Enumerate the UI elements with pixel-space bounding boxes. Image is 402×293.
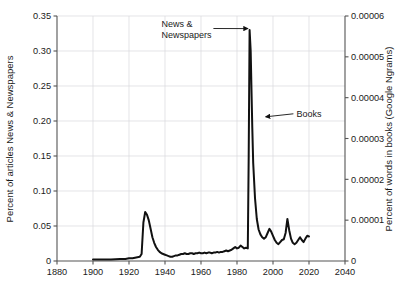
tick-label: 0.35: [33, 11, 51, 21]
y-axis-label-right: Percent of words in books (Google Ngrams…: [383, 47, 394, 232]
figure-caption: [0, 284, 402, 293]
figure-container: 18801900192019401960198020002020204000.0…: [0, 0, 402, 293]
gridlines: [57, 16, 345, 261]
tick-label: 0: [351, 256, 356, 266]
tick-label: 2040: [335, 267, 355, 276]
tick-label: 1940: [155, 267, 175, 276]
tick-label: 0.00004: [351, 93, 384, 103]
chart-annotations: News &NewspapersBooks: [161, 19, 322, 119]
annotation-label: Books: [296, 109, 322, 119]
tick-label: 0.00006: [351, 11, 384, 21]
tick-label: 2020: [299, 267, 319, 276]
tick-label: 0.20: [33, 116, 51, 126]
tick-label: 2000: [263, 267, 283, 276]
tick-label: 1900: [83, 267, 103, 276]
tick-label: 1880: [47, 267, 67, 276]
tick-label: 0.00001: [351, 215, 384, 225]
annotation-arrow: [266, 114, 294, 117]
annotation-label: News &: [161, 19, 192, 29]
tick-label: 0.25: [33, 81, 51, 91]
tick-label: 0.05: [33, 221, 51, 231]
tick-label: 0.10: [33, 186, 51, 196]
y-axis-label-left: Percent of articles News & Newspapers: [4, 55, 15, 222]
tick-label: 1960: [191, 267, 211, 276]
tick-label: 0.15: [33, 151, 51, 161]
tick-label: 0.00002: [351, 175, 384, 185]
tick-label: 1980: [227, 267, 247, 276]
tick-label: 0: [46, 256, 51, 266]
annotation-label: Newspapers: [161, 30, 212, 40]
tick-label: 0.00003: [351, 134, 384, 144]
tick-label: 0.00005: [351, 52, 384, 62]
line-chart: 18801900192019401960198020002020204000.0…: [0, 0, 402, 276]
tick-label: 1920: [119, 267, 139, 276]
tick-label: 0.30: [33, 46, 51, 56]
